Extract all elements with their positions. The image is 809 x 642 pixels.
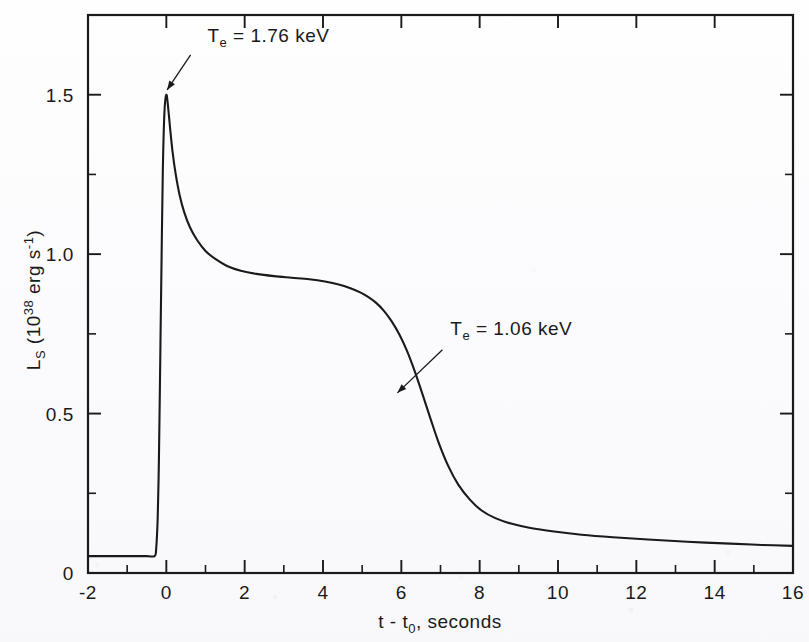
x-tick-label: 10 [547, 582, 569, 603]
chart-annotations: Te = 1.76 keVTe = 1.06 keV [167, 25, 572, 393]
axis-ticks [88, 15, 793, 573]
x-tick-label: 14 [703, 582, 725, 603]
x-axis-title: t - t0, seconds [378, 611, 502, 636]
y-axis-title: LS (1038 erg s-1) [21, 230, 48, 370]
x-tick-label: 16 [782, 582, 804, 603]
line-chart: -2024681012141600.51.01.5 Te = 1.76 keVT… [0, 0, 809, 642]
x-tick-label: 2 [239, 582, 250, 603]
x-tick-label: -2 [79, 582, 97, 603]
x-tick-label: 6 [396, 582, 407, 603]
x-tick-label: 0 [161, 582, 172, 603]
x-tick-label: 8 [474, 582, 485, 603]
annotation-label-late-temperature: Te = 1.06 keV [450, 318, 572, 343]
plot-frame [88, 15, 793, 573]
chart-page: -2024681012141600.51.01.5 Te = 1.76 keVT… [0, 0, 809, 642]
data-series-line [88, 95, 793, 557]
y-tick-label: 0.5 [46, 404, 74, 425]
x-tick-label: 12 [625, 582, 647, 603]
annotation-label-peak-temperature: Te = 1.76 keV [207, 25, 329, 50]
x-tick-label: 4 [317, 582, 328, 603]
y-tick-label: 0 [63, 563, 74, 584]
annotation-arrowhead-peak-temperature [167, 81, 175, 90]
y-tick-label: 1.0 [46, 244, 74, 265]
y-tick-label: 1.5 [46, 85, 74, 106]
